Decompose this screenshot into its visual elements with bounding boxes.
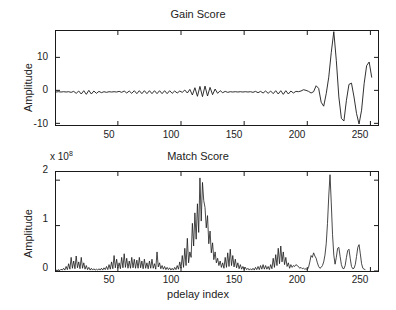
match-score-xtick-150: 150: [219, 274, 249, 285]
match-score-y-multiplier: x 108: [50, 150, 73, 162]
gain-score-xtick-100: 100: [156, 129, 186, 140]
match-score-axes-frame: [56, 172, 379, 272]
match-score-xtick-200: 200: [282, 274, 312, 285]
match-score-y-multiplier-base: x 10: [50, 151, 69, 162]
match-score-plot: [55, 171, 379, 272]
figure-root: Gain Score Amplitude 10 0 -10 50 100 150…: [0, 0, 396, 310]
gain-score-svg: [55, 30, 379, 126]
match-score-y-multiplier-exponent: 8: [69, 150, 73, 157]
gain-score-ytick-10: 10: [18, 51, 48, 62]
match-score-xtick-250: 250: [345, 274, 375, 285]
gain-score-xtick-150: 150: [219, 129, 249, 140]
gain-score-ytick-neg10: -10: [14, 118, 48, 129]
gain-score-axes-frame: [56, 31, 379, 126]
match-score-ytick-2: 2: [18, 164, 48, 175]
gain-score-xtick-200: 200: [282, 129, 312, 140]
match-score-svg: [55, 171, 379, 272]
gain-score-xtick-250: 250: [345, 129, 375, 140]
gain-score-title: Gain Score: [0, 8, 396, 20]
gain-score-ytick-0: 0: [18, 84, 48, 95]
match-score-xlabel: pdelay index: [0, 288, 396, 300]
match-score-xtick-50: 50: [94, 274, 124, 285]
match-score-xtick-100: 100: [156, 274, 186, 285]
match-score-ytick-1: 1: [18, 213, 48, 224]
match-score-ytick-0: 0: [18, 262, 48, 273]
gain-score-xtick-50: 50: [94, 129, 124, 140]
gain-score-plot: [55, 30, 379, 126]
